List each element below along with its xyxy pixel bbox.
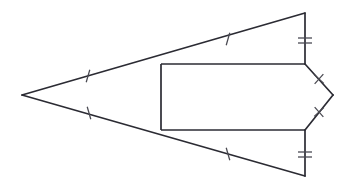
- congruence-tick-marks: [86, 33, 324, 161]
- upper-long-edge: [22, 13, 305, 95]
- triangle-outline: [22, 13, 305, 176]
- inscribed-rectangle: [161, 64, 305, 130]
- lower-long-edge: [22, 95, 305, 176]
- geometry-diagram: [0, 0, 348, 189]
- chevron-shape: [305, 64, 333, 130]
- geometry-figure-canvas: [0, 0, 348, 189]
